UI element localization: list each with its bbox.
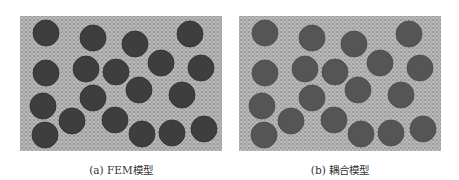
inclusion-circle <box>407 55 433 81</box>
inclusion-circle <box>102 107 128 133</box>
coupled-mesh-image <box>239 16 441 151</box>
inclusion-circle <box>251 122 277 148</box>
fem-mesh-image <box>20 16 222 151</box>
inclusion-circle <box>299 85 325 111</box>
coupled-model-panel <box>239 16 441 151</box>
inclusion-circle <box>345 77 371 103</box>
inclusion-circle <box>378 120 404 146</box>
fem-model-panel <box>20 16 222 151</box>
inclusion-circle <box>33 60 59 86</box>
inclusion-circle <box>322 59 348 85</box>
inclusion-circle <box>299 25 325 51</box>
inclusion-circle <box>278 108 304 134</box>
inclusion-circle <box>341 31 367 57</box>
inclusion-circle <box>191 116 217 142</box>
inclusion-circle <box>80 25 106 51</box>
inclusion-circle <box>169 82 195 108</box>
inclusion-circle <box>73 56 99 82</box>
caption-coupled-model: (b) 耦合模型 <box>239 162 441 177</box>
inclusion-circle <box>252 20 278 46</box>
inclusion-circle <box>252 60 278 86</box>
inclusion-circle <box>188 55 214 81</box>
inclusion-circle <box>292 56 318 82</box>
inclusion-circle <box>410 116 436 142</box>
caption-fem-model: (a) FEM模型 <box>20 162 222 177</box>
inclusion-circle <box>367 50 393 76</box>
inclusion-circle <box>59 108 85 134</box>
inclusion-circle <box>122 31 148 57</box>
inclusion-circle <box>148 50 174 76</box>
inclusion-circle <box>30 93 56 119</box>
inclusion-circle <box>126 77 152 103</box>
inclusion-circle <box>159 120 185 146</box>
inclusion-circle <box>249 93 275 119</box>
inclusion-circle <box>33 20 59 46</box>
inclusion-circle <box>80 85 106 111</box>
inclusion-circle <box>32 122 58 148</box>
inclusion-circle <box>177 21 203 47</box>
inclusion-circle <box>321 107 347 133</box>
inclusion-circle <box>103 59 129 85</box>
inclusion-circle <box>396 21 422 47</box>
inclusion-circle <box>348 121 374 147</box>
inclusion-circle <box>129 121 155 147</box>
inclusion-circle <box>388 82 414 108</box>
